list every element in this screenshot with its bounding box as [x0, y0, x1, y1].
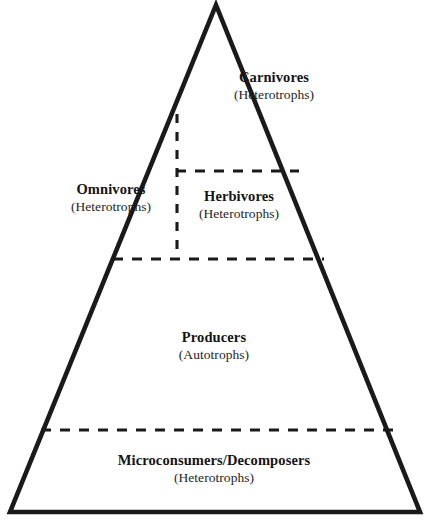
tier-subtitle-herbivores: (Heterotrophs) — [181, 206, 297, 222]
tier-label-decomposers: Microconsumers/Decomposers (Heterotrophs… — [100, 452, 328, 486]
tier-name-omnivores: Omnivores — [52, 181, 170, 199]
tier-name-producers: Producers — [152, 329, 276, 347]
tier-label-omnivores: Omnivores (Heterotrophs) — [52, 181, 170, 215]
ecological-pyramid-diagram: Carnivores (Heterotrophs) Omnivores (Het… — [0, 0, 424, 521]
pyramid-graphic — [0, 0, 424, 521]
tier-name-herbivores: Herbivores — [181, 188, 297, 206]
tier-subtitle-carnivores: (Heterotrophs) — [222, 87, 326, 103]
tier-label-producers: Producers (Autotrophs) — [152, 329, 276, 363]
tier-label-carnivores: Carnivores (Heterotrophs) — [222, 69, 326, 103]
tier-name-decomposers: Microconsumers/Decomposers — [100, 452, 328, 470]
tier-subtitle-omnivores: (Heterotrophs) — [52, 199, 170, 215]
tier-subtitle-producers: (Autotrophs) — [152, 347, 276, 363]
tier-label-herbivores: Herbivores (Heterotrophs) — [181, 188, 297, 222]
tier-name-carnivores: Carnivores — [222, 69, 326, 87]
tier-subtitle-decomposers: (Heterotrophs) — [100, 470, 328, 486]
